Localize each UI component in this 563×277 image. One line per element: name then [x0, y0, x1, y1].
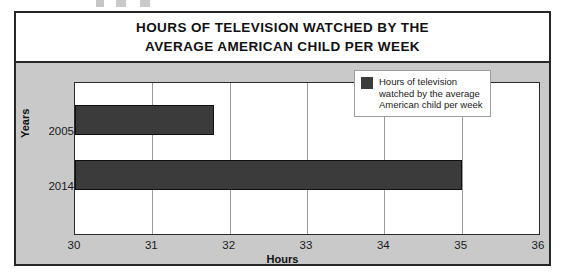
- x-axis-tick-label: 30: [59, 239, 89, 251]
- bar-2014: [75, 160, 462, 190]
- x-axis-tick-label: 32: [214, 239, 244, 251]
- y-axis-title: Years: [19, 124, 31, 138]
- bar-2005: [75, 105, 214, 135]
- legend-color-swatch: [361, 77, 373, 89]
- legend-label-line-1: Hours of television: [379, 76, 483, 88]
- x-axis-tick-label: 34: [368, 239, 398, 251]
- x-axis-tick-label: 31: [136, 239, 166, 251]
- x-axis-tick-label: 33: [291, 239, 321, 251]
- chart-legend: Hours of television watched by the avera…: [354, 70, 491, 117]
- x-axis-tick-label: 35: [446, 239, 476, 251]
- x-axis-tick-label: 36: [523, 239, 553, 251]
- y-axis-tick-label: 2014: [34, 180, 74, 192]
- gridline: [230, 83, 231, 234]
- chart-body: Years 2005 2014 Hours of television watc…: [16, 63, 549, 264]
- chart-title-panel: HOURS OF TELEVISION WATCHED BY THE AVERA…: [16, 13, 549, 63]
- y-axis-tick-label: 2005: [34, 125, 74, 137]
- legend-label-line-2: watched by the average: [379, 88, 483, 100]
- legend-label: Hours of television watched by the avera…: [379, 76, 483, 111]
- x-axis-title: Hours: [16, 253, 549, 265]
- chart-title-line-2: AVERAGE AMERICAN CHILD PER WEEK: [145, 37, 420, 56]
- scan-artifact: [96, 0, 156, 7]
- chart-title-line-1: HOURS OF TELEVISION WATCHED BY THE: [136, 18, 429, 37]
- legend-label-line-3: American child per week: [379, 99, 483, 111]
- gridline: [307, 83, 308, 234]
- chart-figure: HOURS OF TELEVISION WATCHED BY THE AVERA…: [14, 11, 551, 266]
